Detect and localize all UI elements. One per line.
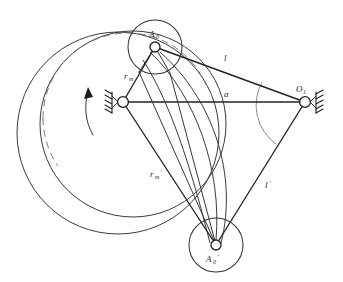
label-link-l-upper: l <box>224 53 227 63</box>
link-l-upper <box>155 47 305 102</box>
mechanism-drawing: A 0 A 0 ' O 1 l l ' a r m r <box>0 0 343 282</box>
right-hatch-1 <box>316 90 323 94</box>
rotation-arrow-shaft <box>86 93 93 135</box>
left-ground-pivot <box>118 97 129 108</box>
label-right-pivot: O 1 <box>296 84 306 95</box>
crank-pin-position-1 <box>150 42 160 52</box>
construction-line-1 <box>139 72 216 245</box>
label-radius-primed-text: r <box>150 169 154 179</box>
label-bottom-joint-subscript: 0 <box>213 259 216 265</box>
label-radius-subscript: m <box>129 76 134 82</box>
left-ground-support <box>105 90 118 113</box>
label-top-joint-subscript: 0 <box>156 34 159 40</box>
label-bottom-joint-text: A <box>205 254 212 264</box>
right-hatch-5 <box>316 109 323 113</box>
right-hatch-3 <box>316 100 323 104</box>
link-crank-r-prime <box>123 102 216 245</box>
label-top-joint-text: A <box>148 29 155 39</box>
rotation-arrow-head <box>84 87 93 99</box>
label-link-l-lower: l ' <box>265 179 271 190</box>
crank-pin-position-2 <box>211 240 221 250</box>
label-bottom-joint: A 0 ' <box>205 253 219 265</box>
left-hatch-4 <box>105 105 112 109</box>
label-radius-primed: r m ' <box>150 168 162 180</box>
right-hatch-2 <box>316 95 323 99</box>
label-right-pivot-subscript: 1 <box>303 89 306 95</box>
right-hatch-4 <box>316 105 323 109</box>
label-link-l-lower-prime: ' <box>269 179 271 187</box>
link-l-lower <box>216 102 305 245</box>
label-bottom-joint-prime: ' <box>217 253 219 261</box>
locus-circle-dashed-lower <box>43 118 58 166</box>
left-hatch-2 <box>105 95 112 99</box>
label-radius-text: r <box>124 71 128 81</box>
left-hatch-3 <box>105 100 112 104</box>
label-right-pivot-text: O <box>296 84 303 94</box>
left-hatch-1 <box>105 90 112 94</box>
label-ground-link-a: a <box>224 89 229 99</box>
oscillation-angle-arc <box>256 82 276 144</box>
counterclockwise-rotation-arrow <box>84 87 93 135</box>
right-ground-pivot <box>300 97 311 108</box>
left-hatch-5 <box>105 109 112 113</box>
label-top-joint: A 0 <box>148 29 159 40</box>
label-radius: r m <box>124 71 134 82</box>
kinematic-diagram: A 0 A 0 ' O 1 l l ' a r m r <box>0 0 343 282</box>
label-link-l-lower-text: l <box>265 180 268 190</box>
right-ground-support <box>310 90 323 113</box>
label-radius-primed-prime: ' <box>160 168 162 176</box>
